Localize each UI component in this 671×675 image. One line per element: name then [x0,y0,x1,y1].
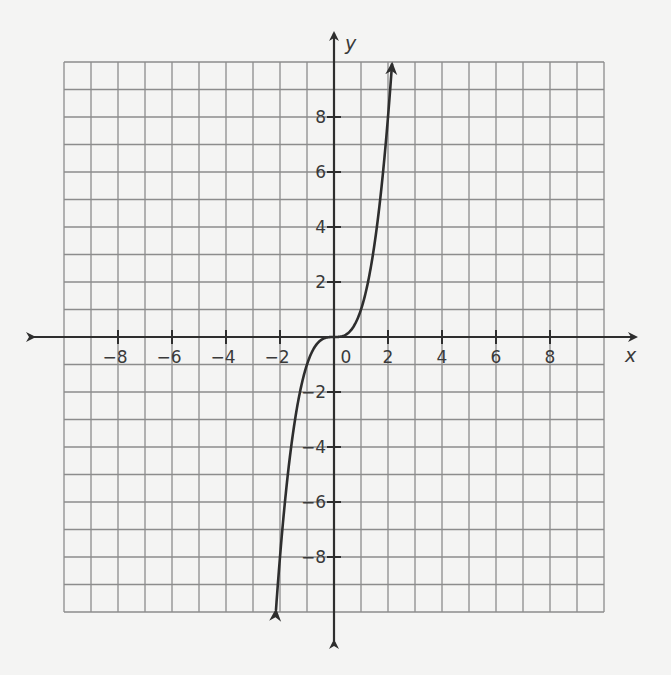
y-tick-label: 8 [315,107,326,127]
y-axis-label: y [344,32,357,54]
y-tick-label: −4 [301,437,326,457]
x-tick-label: 0 [341,347,352,367]
x-tick-label: −6 [156,347,181,367]
y-tick-label: −8 [301,547,326,567]
coordinate-plane: −8−6−4−202468−8−6−4−22468 x y [0,0,671,675]
x-tick-label: 4 [437,347,448,367]
x-tick-label: 8 [545,347,556,367]
y-tick-label: 6 [315,162,326,182]
y-tick-label: 4 [315,217,326,237]
y-tick-label: −6 [301,492,326,512]
x-tick-label: −4 [210,347,235,367]
x-tick-label: −2 [264,347,289,367]
x-tick-label: −8 [102,347,127,367]
x-tick-label: 6 [491,347,502,367]
x-tick-label: 2 [383,347,394,367]
x-axis-label: x [624,344,637,366]
y-tick-label: −2 [301,382,326,402]
y-tick-label: 2 [315,272,326,292]
